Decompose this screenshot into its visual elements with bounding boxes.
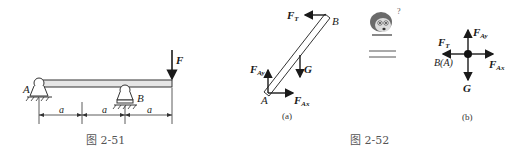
- label-b: B: [332, 15, 339, 27]
- cartoon-monkey-icon: ?: [369, 7, 401, 57]
- label-a: A: [260, 94, 268, 106]
- caption-2-52: 图 2-52: [350, 134, 389, 147]
- caption-2-51: 图 2-51: [86, 134, 125, 147]
- caption-b: (b): [462, 112, 473, 122]
- caption-a: (a): [282, 111, 292, 121]
- label-g-b: G: [463, 82, 471, 94]
- figure-2-52a: FT B G FAy A FAx (a): [249, 9, 339, 121]
- span-label-3: a: [147, 104, 152, 115]
- joint-point: [464, 50, 472, 58]
- label-fax: FAx: [293, 94, 310, 108]
- label-g: G: [304, 63, 312, 75]
- label-fay-b: FAy: [472, 26, 488, 40]
- span-label-1: a: [59, 104, 64, 115]
- label-fax-b: FAx: [488, 58, 505, 72]
- question-mark: ?: [397, 7, 401, 16]
- label-ft: FT: [286, 9, 299, 23]
- diagram-canvas: A B F a a a 图 2-51 FT B G FAy A FAx (a): [0, 0, 517, 155]
- inclined-bar: [264, 14, 330, 96]
- span-label-2: a: [102, 104, 107, 115]
- roller-support-b: [113, 85, 137, 109]
- label-b: B: [137, 92, 144, 104]
- label-f: F: [175, 54, 184, 66]
- label-fay: FAy: [249, 63, 265, 77]
- figure-2-52b: FAy FT B(A) FAx G (b): [434, 26, 505, 122]
- figure-2-51: A B F a a a 图 2-51: [22, 50, 184, 147]
- label-a: A: [22, 83, 30, 95]
- label-ft-b: FT: [437, 36, 450, 50]
- label-point-b: B(A): [434, 57, 454, 69]
- beam: [38, 80, 172, 87]
